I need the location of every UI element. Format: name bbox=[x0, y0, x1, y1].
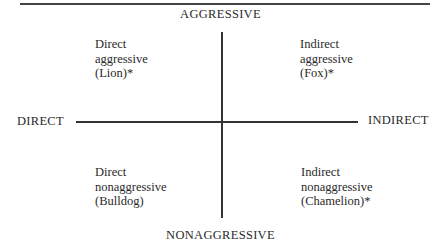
quadrant-direct-nonaggressive: Direct nonaggressive (Bulldog) bbox=[95, 165, 167, 209]
axis-label-indirect: INDIRECT bbox=[368, 114, 429, 127]
quadrant-indirect-aggressive: Indirect aggressive (Fox)* bbox=[300, 37, 353, 81]
quadrant-indirect-nonaggressive: Indirect nonaggressive (Chamelion)* bbox=[301, 165, 373, 209]
quadrant-animal: (Bulldog) bbox=[95, 194, 167, 209]
quadrant-line: nonaggressive bbox=[95, 180, 167, 195]
quadrant-line: aggressive bbox=[95, 52, 148, 67]
vertical-axis-line bbox=[221, 32, 223, 218]
top-rule bbox=[20, 3, 430, 5]
quadrant-direct-aggressive: Direct aggressive (Lion)* bbox=[95, 37, 148, 81]
horizontal-axis-line bbox=[76, 121, 358, 123]
axis-label-direct: DIRECT bbox=[17, 115, 64, 128]
quadrant-line: aggressive bbox=[300, 52, 353, 67]
quadrant-animal: (Chamelion)* bbox=[301, 194, 373, 209]
quadrant-line: Indirect bbox=[300, 37, 353, 52]
axis-label-nonaggressive: NONAGGRESSIVE bbox=[0, 229, 441, 242]
quadrant-line: Indirect bbox=[301, 165, 373, 180]
quadrant-animal: (Fox)* bbox=[300, 66, 353, 81]
quadrant-line: Direct bbox=[95, 165, 167, 180]
quadrant-animal: (Lion)* bbox=[95, 66, 148, 81]
quadrant-line: Direct bbox=[95, 37, 148, 52]
axis-label-aggressive: AGGRESSIVE bbox=[0, 8, 441, 21]
quadrant-line: nonaggressive bbox=[301, 180, 373, 195]
